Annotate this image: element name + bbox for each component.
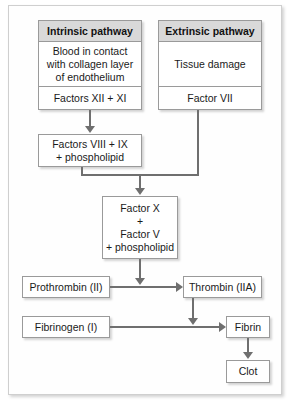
edge-intrinsic-to-factors89-arrowhead (85, 126, 95, 133)
node-factors-viii-ix-line2: + phospholipid (56, 151, 124, 164)
intrinsic-pathway-body: Blood in contact with collagen layer of … (39, 42, 141, 87)
node-factors-viii-ix: Factors VIII + IX + phospholipid (38, 134, 142, 167)
node-thrombin: Thrombin (IIA) (183, 276, 262, 298)
node-clot: Clot (226, 360, 270, 383)
edge-fibrinogen-to-fibrin-line (110, 326, 221, 328)
edge-fibrin-to-clot-arrowhead (243, 352, 253, 359)
extrinsic-pathway-body: Tissue damage (159, 42, 261, 87)
node-fibrinogen: Fibrinogen (I) (22, 316, 110, 338)
node-factor-x-v: Factor X + Factor V + phospholipid (102, 196, 178, 259)
node-factor-x-line3: Factor V (120, 228, 160, 241)
edge-factorx-to-thrombin-line (139, 259, 141, 280)
node-fibrinogen-label: Fibrinogen (I) (23, 317, 109, 337)
extrinsic-pathway-header: Extrinsic pathway (159, 21, 261, 42)
edge-extrinsic-to-junction-line (197, 110, 199, 176)
edge-fibrinogen-to-fibrin-arrowhead (219, 322, 226, 332)
node-factor-x-line2: + (137, 215, 143, 228)
edge-thrombin-to-fibrin-arrowhead (188, 318, 198, 325)
node-factor-x-line1: Factor X (120, 202, 160, 215)
node-fibrin-label: Fibrin (227, 317, 269, 337)
edge-junction-to-factorx-arrowhead (135, 188, 145, 195)
intrinsic-pathway-footer: Factors XII + XI (39, 87, 141, 109)
node-factors-viii-ix-line1: Factors VIII + IX (52, 138, 128, 151)
diagram-canvas: Intrinsic pathway Blood in contact with … (0, 0, 292, 411)
intrinsic-pathway-header: Intrinsic pathway (39, 21, 141, 42)
extrinsic-pathway-footer: Factor VII (159, 87, 261, 109)
node-thrombin-label: Thrombin (IIA) (184, 277, 261, 297)
intrinsic-pathway-panel: Intrinsic pathway Blood in contact with … (38, 20, 142, 110)
edge-factorx-to-thrombin-arrowhead (135, 278, 145, 285)
node-prothrombin-label: Prothrombin (II) (23, 277, 109, 297)
node-factor-x-line4: + phospholipid (106, 241, 174, 254)
edge-thrombin-to-fibrin-line (192, 298, 194, 320)
edge-prothrombin-to-thrombin-arrowhead (176, 282, 183, 292)
node-fibrin: Fibrin (226, 316, 270, 338)
node-prothrombin: Prothrombin (II) (22, 276, 110, 298)
edge-prothrombin-to-thrombin-line (110, 286, 178, 288)
extrinsic-pathway-panel: Extrinsic pathway Tissue damage Factor V… (158, 20, 262, 110)
node-clot-label: Clot (227, 361, 269, 382)
